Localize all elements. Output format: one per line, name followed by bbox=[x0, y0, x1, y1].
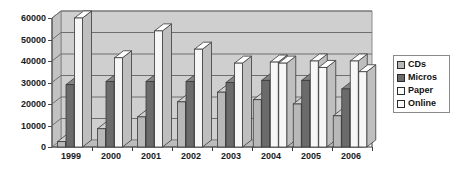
x-axis-tick bbox=[332, 147, 333, 151]
x-axis-tick bbox=[172, 147, 173, 151]
x-axis-tick bbox=[212, 147, 213, 151]
x-axis: 19992000200120022003200420052006 bbox=[0, 0, 461, 178]
x-axis-label: 2000 bbox=[101, 151, 121, 161]
x-axis-label: 2003 bbox=[221, 151, 241, 161]
x-axis-label: 2002 bbox=[181, 151, 201, 161]
bar-chart: 0100002000030000400005000060000 19992000… bbox=[0, 0, 461, 178]
legend-swatch-icon bbox=[397, 61, 405, 69]
x-axis-label: 2006 bbox=[341, 151, 361, 161]
x-axis-tick bbox=[132, 147, 133, 151]
legend-item-online[interactable]: Online bbox=[397, 97, 446, 110]
legend-item-paper[interactable]: Paper bbox=[397, 84, 446, 97]
legend-swatch-icon bbox=[397, 87, 405, 95]
x-axis-tick bbox=[292, 147, 293, 151]
legend-swatch-icon bbox=[397, 74, 405, 82]
chart-legend: CDsMicrosPaperOnline bbox=[393, 55, 450, 113]
x-axis-tick bbox=[92, 147, 93, 151]
legend-swatch-icon bbox=[397, 100, 405, 108]
x-axis-label: 2001 bbox=[141, 151, 161, 161]
x-axis-tick bbox=[372, 147, 373, 151]
x-axis-label: 2005 bbox=[301, 151, 321, 161]
legend-item-cds[interactable]: CDs bbox=[397, 58, 446, 71]
x-axis-label: 1999 bbox=[61, 151, 81, 161]
legend-item-label: Micros bbox=[408, 73, 437, 82]
x-axis-tick bbox=[252, 147, 253, 151]
legend-item-label: Online bbox=[408, 99, 436, 108]
x-axis-label: 2004 bbox=[261, 151, 281, 161]
legend-item-label: Paper bbox=[408, 86, 433, 95]
legend-item-micros[interactable]: Micros bbox=[397, 71, 446, 84]
legend-item-label: CDs bbox=[408, 60, 426, 69]
